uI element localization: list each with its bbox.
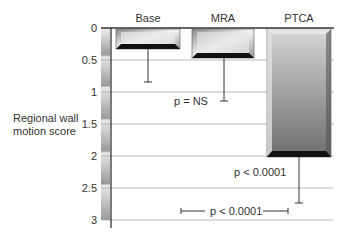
bar-mra — [192, 29, 254, 58]
y-tick-labels: 0 0.5 1 1.5 2 2.5 3 — [82, 22, 97, 226]
bar-ptca — [267, 29, 331, 157]
y-tick-3: 3 — [91, 214, 97, 226]
category-mra: MRA — [211, 12, 236, 24]
y-tick-0.5: 0.5 — [82, 54, 97, 66]
category-base: Base — [135, 12, 160, 24]
y-tick-2.5: 2.5 — [82, 182, 97, 194]
y-tick-0: 0 — [91, 22, 97, 34]
bar-chart: 0 0.5 1 1.5 2 2.5 3 Regional wall motion… — [0, 0, 343, 240]
annotation-p-ptca: p < 0.0001 — [234, 166, 286, 178]
annotation-p-bracket: p < 0.0001 — [210, 205, 262, 217]
y-tick-1: 1 — [91, 86, 97, 98]
annotation-p-ns: p = NS — [174, 95, 208, 107]
y-tick-2: 2 — [91, 150, 97, 162]
y-tick-1.5: 1.5 — [82, 118, 97, 130]
bar-base — [116, 29, 180, 49]
category-ptca: PTCA — [284, 12, 314, 24]
category-labels: Base MRA PTCA — [135, 12, 314, 24]
y-axis-label-line1: Regional wall — [13, 112, 78, 124]
y-axis-label: Regional wall motion score — [13, 112, 78, 137]
y-axis-label-line2: motion score — [13, 125, 76, 137]
